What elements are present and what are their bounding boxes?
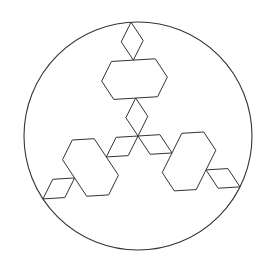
koch-snowflake-diagram (0, 0, 264, 270)
figure-canvas (0, 0, 264, 270)
koch-snowflake (43, 22, 240, 199)
